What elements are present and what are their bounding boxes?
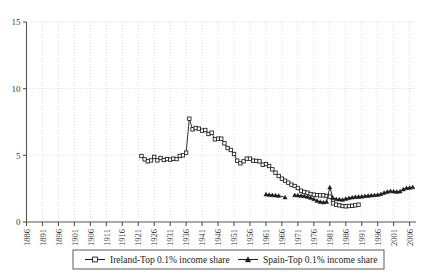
- x-axis-tick-label: 1971: [293, 229, 303, 246]
- x-axis-tick-label: 1916: [117, 229, 127, 246]
- x-axis-tick-label: 1896: [54, 229, 64, 246]
- data-point-marker: [328, 185, 332, 189]
- x-axis-tick-label: 1901: [70, 229, 80, 246]
- x-axis-tick-label: 2006: [405, 229, 415, 246]
- income-share-line-chart: 0510151886189118961901190619111916192119…: [0, 0, 432, 280]
- x-axis-tick-label: 1986: [341, 229, 351, 246]
- x-axis-tick-label: 1886: [22, 229, 32, 246]
- x-axis-tick-label: 1891: [38, 229, 48, 246]
- x-axis-tick-label: 1976: [309, 229, 319, 246]
- x-axis-tick-label: 1926: [149, 229, 159, 246]
- data-point-marker: [204, 128, 207, 131]
- x-axis-tick-label: 1991: [357, 229, 367, 246]
- x-axis-tick-label: 1996: [373, 229, 383, 246]
- data-point-marker: [210, 131, 213, 134]
- data-point-marker: [188, 117, 191, 120]
- data-point-marker: [229, 148, 232, 151]
- x-axis-tick-label: 1946: [213, 229, 223, 246]
- x-axis-tick-label: 1981: [325, 229, 335, 246]
- data-point-marker: [267, 164, 270, 167]
- data-point-marker: [328, 195, 331, 198]
- data-point-marker: [153, 155, 156, 158]
- legend-marker-open-square-icon: [93, 257, 98, 262]
- chart-legend: Ireland-Top 0.1% income shareSpain-Top 0…: [73, 250, 384, 269]
- legend-entry-label: Spain-Top 0.1% income share: [263, 255, 377, 265]
- data-point-marker: [274, 171, 277, 174]
- x-axis-tick-label: 1906: [86, 229, 96, 246]
- y-axis-tick-label: 0: [16, 217, 21, 227]
- data-point-marker: [232, 152, 235, 155]
- y-axis-tick-label: 5: [16, 151, 21, 161]
- data-point-marker: [271, 168, 274, 171]
- x-axis-tick-label: 1956: [245, 229, 255, 246]
- series-2: [264, 185, 415, 204]
- data-point-marker: [223, 142, 226, 145]
- chart-container: 0510151886189118961901190619111916192119…: [0, 0, 432, 280]
- x-axis-tick-label: 1921: [133, 229, 143, 246]
- x-axis-tick-label: 1941: [197, 229, 207, 246]
- data-point-marker: [357, 203, 360, 206]
- x-axis-tick-label: 1931: [165, 229, 175, 246]
- x-axis-tick-label: 1966: [277, 229, 287, 246]
- data-point-marker: [140, 154, 143, 157]
- x-axis-tick-label: 1951: [229, 229, 239, 246]
- x-axis-tick-label: 1911: [102, 229, 112, 246]
- x-axis-tick-label: 2001: [389, 229, 399, 246]
- x-axis-tick-label: 1961: [261, 229, 271, 246]
- data-point-marker: [220, 137, 223, 140]
- y-axis-tick-label: 10: [12, 84, 22, 94]
- data-point-marker: [149, 159, 152, 162]
- x-axis-tick-label: 1936: [181, 229, 191, 246]
- data-point-marker: [258, 160, 261, 163]
- data-point-marker: [184, 151, 187, 154]
- legend-entry-label: Ireland-Top 0.1% income share: [110, 255, 230, 265]
- y-axis-tick-label: 15: [12, 17, 22, 27]
